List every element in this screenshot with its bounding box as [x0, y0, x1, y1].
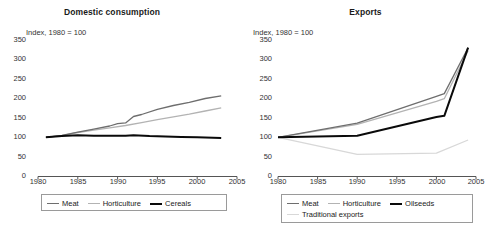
- legend-item-meat-right[interactable]: Meat: [287, 199, 319, 208]
- legend-swatch-horticulture-icon: [88, 203, 100, 204]
- legend-item-cereals-left[interactable]: Cereals: [150, 199, 191, 208]
- x-tick-right-1985: 1985: [303, 178, 333, 186]
- chart-panel-domestic-consumption: Domestic consumption Index, 1980 = 100 3…: [0, 0, 248, 239]
- x-tick-right-1995: 1995: [382, 178, 412, 186]
- series-line-meat-left: [46, 96, 221, 138]
- series-line-meat-right: [278, 48, 468, 138]
- x-tick-right-2005: 2005: [461, 178, 491, 186]
- legend-left[interactable]: Meat Horticulture Cereals: [41, 194, 227, 211]
- plot-area-left: [0, 0, 248, 185]
- x-tick-left-1980: 1980: [23, 178, 53, 186]
- figure-container: Domestic consumption Index, 1980 = 100 3…: [0, 0, 495, 239]
- legend-label-cereals: Cereals: [165, 199, 191, 208]
- x-tick-left-1990: 1990: [103, 178, 133, 186]
- legend-swatch-traditional-exports-icon: [287, 214, 299, 215]
- legend-label-horticulture: Horticulture: [103, 199, 141, 208]
- plot-area-right: [248, 0, 495, 185]
- series-line-oilseeds-right: [278, 48, 468, 138]
- legend-swatch-meat-icon: [287, 203, 299, 204]
- x-tick-right-2000: 2000: [422, 178, 452, 186]
- legend-label-traditional-exports: Traditional exports: [302, 210, 363, 219]
- legend-item-oilseeds-right[interactable]: Oilseeds: [390, 199, 434, 208]
- x-tick-left-2000: 2000: [182, 178, 212, 186]
- legend-item-traditional-exports-right[interactable]: Traditional exports: [287, 210, 363, 219]
- legend-label-meat: Meat: [302, 199, 319, 208]
- plot-svg-left: [0, 0, 248, 185]
- legend-item-horticulture-right[interactable]: Horticulture: [328, 199, 381, 208]
- legend-swatch-meat-icon: [47, 203, 59, 204]
- x-tick-right-1990: 1990: [342, 178, 372, 186]
- legend-right[interactable]: Meat Horticulture Oilseeds Traditional e…: [281, 194, 473, 223]
- plot-svg-right: [248, 0, 495, 185]
- series-line-traditional-exports-right: [278, 137, 468, 154]
- legend-swatch-horticulture-icon: [328, 203, 340, 204]
- legend-item-horticulture-left[interactable]: Horticulture: [88, 199, 141, 208]
- legend-label-oilseeds: Oilseeds: [405, 199, 434, 208]
- series-line-horticulture-right: [278, 51, 468, 138]
- chart-panel-exports: Exports Index, 1980 = 100 350 300 250 20…: [248, 0, 495, 239]
- legend-swatch-cereals-icon: [150, 203, 162, 205]
- legend-label-meat: Meat: [62, 199, 79, 208]
- series-line-cereals-left: [46, 135, 221, 138]
- legend-label-horticulture: Horticulture: [343, 199, 381, 208]
- legend-swatch-oilseeds-icon: [390, 203, 402, 205]
- x-tick-left-1985: 1985: [63, 178, 93, 186]
- x-tick-left-1995: 1995: [142, 178, 172, 186]
- x-tick-right-1980: 1980: [263, 178, 293, 186]
- legend-item-meat-left[interactable]: Meat: [47, 199, 79, 208]
